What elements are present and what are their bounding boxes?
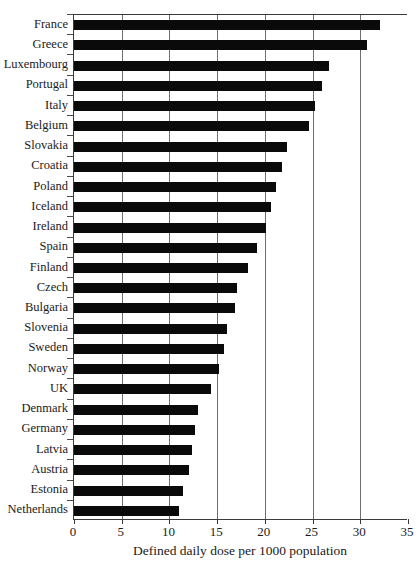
category-axis-tick	[67, 34, 73, 35]
category-label: Iceland	[31, 200, 68, 213]
bar	[74, 81, 322, 91]
category-axis-tick	[67, 95, 73, 96]
x-axis-tick-label: 30	[353, 524, 366, 539]
bar	[74, 121, 309, 131]
bar	[74, 20, 380, 30]
category-label: Spain	[40, 240, 68, 253]
bar	[74, 344, 224, 354]
bar	[74, 324, 227, 334]
category-label: Norway	[28, 362, 68, 375]
bar	[74, 303, 235, 313]
category-label: Croatia	[31, 159, 68, 172]
category-label: Portugal	[26, 78, 68, 91]
category-label: Denmark	[21, 402, 68, 415]
category-label: France	[34, 18, 68, 31]
category-label: Finland	[30, 261, 68, 274]
category-axis-tick	[67, 318, 73, 319]
category-axis-tick	[67, 480, 73, 481]
bar	[74, 202, 271, 212]
category-axis-tick	[67, 237, 73, 238]
bar	[74, 364, 219, 374]
category-axis-tick	[67, 54, 73, 55]
category-axis-tick	[67, 419, 73, 420]
category-axis-tick	[67, 297, 73, 298]
category-label: Poland	[33, 180, 68, 193]
category-label: Sweden	[28, 341, 68, 354]
category-axis-tick	[67, 500, 73, 501]
category-label: Netherlands	[8, 503, 68, 516]
category-axis-tick	[67, 358, 73, 359]
gridline	[360, 15, 361, 519]
category-axis-tick	[67, 277, 73, 278]
category-label: Luxembourg	[4, 58, 68, 71]
category-axis-tick	[67, 156, 73, 157]
category-label: Belgium	[25, 119, 68, 132]
bar	[74, 142, 287, 152]
category-axis-tick	[67, 75, 73, 76]
x-axis-tick-label: 20	[257, 524, 270, 539]
bar	[74, 40, 367, 50]
category-label: Slovakia	[24, 139, 68, 152]
bar	[74, 162, 282, 172]
category-label: Slovenia	[24, 321, 68, 334]
category-axis-tick	[67, 459, 73, 460]
category-label: Germany	[21, 422, 68, 435]
category-label: Estonia	[31, 483, 69, 496]
category-label: Greece	[33, 38, 68, 51]
bar	[74, 384, 211, 394]
bar	[74, 425, 195, 435]
category-axis-tick	[67, 378, 73, 379]
category-label: Ireland	[33, 220, 68, 233]
bar	[74, 61, 329, 71]
bar	[74, 243, 257, 253]
plot-area	[73, 14, 407, 520]
bar	[74, 445, 192, 455]
x-axis-tick-label: 25	[305, 524, 318, 539]
category-axis-tick	[67, 196, 73, 197]
category-label: Austria	[31, 463, 68, 476]
category-axis-tick	[67, 338, 73, 339]
bar	[74, 283, 237, 293]
category-axis-tick	[67, 115, 73, 116]
x-axis-tick-label: 5	[117, 524, 124, 539]
category-label: Bulgaria	[25, 301, 68, 314]
category-label: Czech	[37, 281, 68, 294]
category-axis-tick	[67, 257, 73, 258]
bar	[74, 465, 189, 475]
bar	[74, 223, 266, 233]
x-axis-tick-label: 15	[210, 524, 223, 539]
bar	[74, 506, 179, 516]
category-axis-tick	[67, 439, 73, 440]
category-label: Latvia	[36, 443, 68, 456]
bar	[74, 182, 276, 192]
bar	[74, 486, 183, 496]
bar	[74, 263, 248, 273]
x-axis-title: Defined daily dose per 1000 population	[73, 543, 407, 559]
x-axis-tick-label: 0	[70, 524, 77, 539]
category-label: UK	[50, 382, 68, 395]
category-axis-tick	[67, 216, 73, 217]
category-axis-tick	[67, 176, 73, 177]
bar-chart: FranceGreeceLuxembourgPortugalItalyBelgi…	[0, 0, 419, 570]
category-axis-tick	[67, 135, 73, 136]
category-label: Italy	[45, 99, 68, 112]
category-axis-tick	[67, 399, 73, 400]
bar	[74, 405, 198, 415]
category-axis-tick	[67, 14, 73, 15]
bar	[74, 101, 315, 111]
x-axis-tick-label: 10	[162, 524, 175, 539]
x-axis-tick-label: 35	[401, 524, 414, 539]
